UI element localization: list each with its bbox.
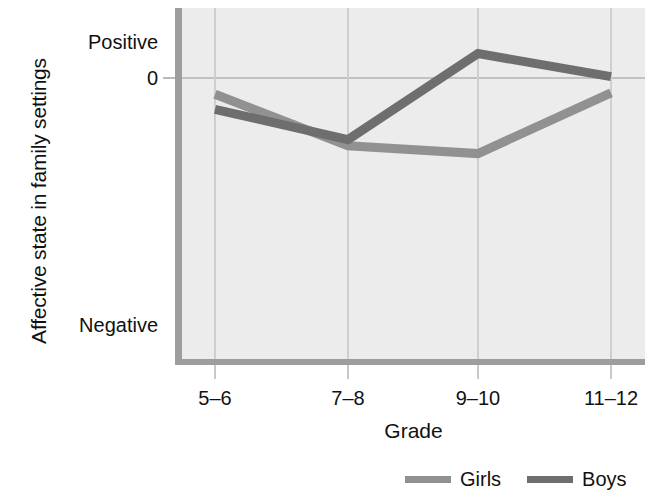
x-tick-label-3: 11–12: [551, 386, 645, 410]
x-axis-title: Grade: [182, 418, 645, 444]
chart-legend: GirlsBoys: [405, 466, 627, 492]
legend-item-boys[interactable]: Boys: [527, 467, 626, 491]
legend-item-girls[interactable]: Girls: [405, 467, 501, 491]
legend-swatch-girls: [405, 476, 451, 483]
legend-label-girls: Girls: [460, 467, 501, 491]
line-series-boys: [215, 54, 611, 140]
x-tick-label-2: 9–10: [418, 386, 538, 410]
x-tick-label-1: 7–8: [288, 386, 408, 410]
legend-label-boys: Boys: [582, 467, 626, 491]
chart-figure: Affective state in family settings Posit…: [0, 0, 645, 495]
x-tick-label-0: 5–6: [155, 386, 275, 410]
legend-swatch-boys: [527, 476, 573, 483]
